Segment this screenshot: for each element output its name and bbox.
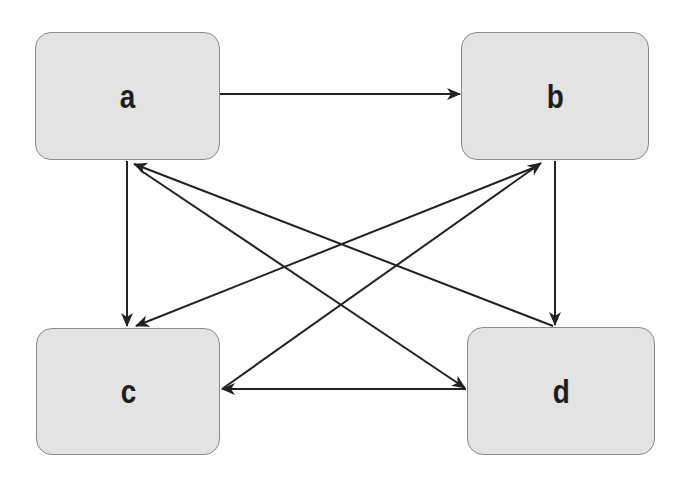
node-b: b xyxy=(461,32,649,160)
node-d-label: d xyxy=(552,372,569,411)
node-a-label: a xyxy=(120,77,136,116)
node-d: d xyxy=(467,327,655,455)
edge-b-c xyxy=(136,168,533,326)
node-c: c xyxy=(36,328,220,455)
node-c-label: c xyxy=(120,372,136,411)
node-a: a xyxy=(35,32,220,160)
node-b-label: b xyxy=(546,77,563,116)
